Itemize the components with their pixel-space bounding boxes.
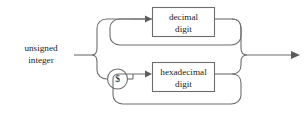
split-upper-branch-line bbox=[92, 19, 152, 55]
hexadecimal-box-entry-line bbox=[133, 74, 146, 79]
entry-label-line2: integer bbox=[28, 55, 54, 65]
entry-label-line1: unsigned bbox=[24, 43, 58, 53]
hexadecimal-digit-label-line1: hexadecimal bbox=[160, 67, 207, 77]
decimal-digit-label-line2: digit bbox=[175, 24, 192, 34]
railroad-diagram-svg: $ unsigned integer decimal digit hexadec… bbox=[0, 0, 308, 115]
decimal-digit-label-line1: decimal bbox=[169, 12, 199, 22]
split-lower-branch-line bbox=[92, 55, 110, 79]
merge-upper-branch-line bbox=[232, 19, 247, 55]
decimal-box-entry-arrowhead bbox=[145, 16, 152, 23]
hexadecimal-digit-label-line2: digit bbox=[175, 79, 192, 89]
exit-arrowhead bbox=[291, 51, 300, 59]
syntax-diagram-canvas: $ unsigned integer decimal digit hexadec… bbox=[0, 0, 308, 115]
dollar-token-label: $ bbox=[115, 74, 120, 84]
hexadecimal-box-entry-arrowhead bbox=[145, 71, 152, 78]
merge-lower-branch-line bbox=[232, 55, 247, 74]
